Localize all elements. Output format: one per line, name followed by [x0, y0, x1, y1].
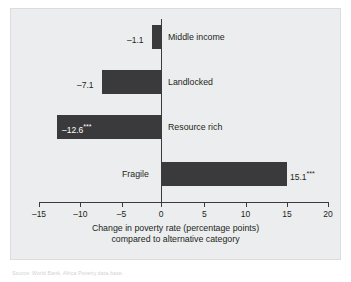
x-axis-tick: [39, 202, 40, 207]
category-label-resource-rich: Resource rich: [168, 122, 222, 132]
x-axis-tick-label: 15: [282, 209, 291, 219]
category-label-fragile: Fragile: [122, 169, 149, 179]
x-axis-tick-label: –5: [117, 209, 126, 219]
x-axis-title-line2: compared to alternative category: [11, 234, 340, 245]
category-label-landlocked: Landlocked: [168, 77, 213, 87]
x-axis-line: [39, 202, 328, 203]
bar-middle-income[interactable]: [152, 25, 161, 49]
x-axis-tick-label: 0: [159, 209, 164, 219]
x-axis-tick: [204, 202, 205, 207]
x-axis-tick-label: –10: [73, 209, 87, 219]
bar-value-landlocked: –7.1: [77, 77, 94, 90]
bar-fragile[interactable]: [162, 162, 287, 186]
bar-landlocked[interactable]: [102, 70, 161, 94]
x-axis-tick: [287, 202, 288, 207]
x-axis-tick-label: –15: [32, 209, 46, 219]
bar-value-fragile: 15.1***: [290, 169, 315, 182]
x-axis-title-line1: Change in poverty rate (percentage point…: [11, 223, 340, 234]
bar-value-middle-income: –1.1: [127, 32, 144, 45]
significance-marker-fragile: ***: [307, 170, 315, 177]
x-axis-tick: [161, 197, 162, 207]
significance-marker-resource-rich: ***: [83, 123, 91, 130]
source-caption: Source: World Bank, Africa Poverty data-…: [12, 270, 123, 276]
x-axis-tick: [246, 202, 247, 207]
x-axis-tick-label: 10: [241, 209, 250, 219]
bar-value-resource-rich: –12.6***: [62, 122, 91, 135]
chart-panel: –1.1 Middle income –7.1 Landlocked –12.6…: [10, 8, 341, 260]
x-axis-title: Change in poverty rate (percentage point…: [11, 223, 340, 245]
x-axis-tick-label: 5: [202, 209, 207, 219]
x-axis-tick-label: 20: [323, 209, 332, 219]
x-axis-tick: [328, 202, 329, 207]
category-label-middle-income: Middle income: [168, 32, 225, 42]
plot-area: –1.1 Middle income –7.1 Landlocked –12.6…: [11, 9, 340, 259]
x-axis-tick: [122, 202, 123, 207]
x-axis-tick: [80, 202, 81, 207]
